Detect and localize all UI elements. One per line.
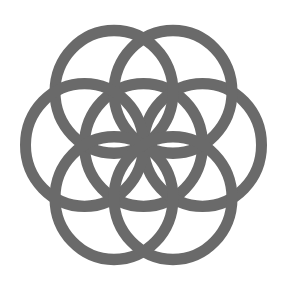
seed-of-life-figure bbox=[0, 0, 287, 288]
